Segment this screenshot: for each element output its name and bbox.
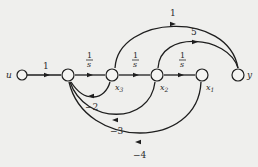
gain-x3-x2-num: 1	[133, 51, 138, 60]
node-x2	[151, 69, 163, 81]
node-n1	[62, 69, 74, 81]
gain-u-n1: 1	[43, 61, 49, 71]
node-label-x3: x3	[115, 83, 124, 93]
gain-x3-n1: −2	[85, 102, 98, 112]
node-x1	[196, 69, 208, 81]
node-label-y: y	[246, 70, 253, 80]
signal-flow-graph: u y x3 x2 x1 1 1 s 1 s 1 s 1 5 −2 −3 −4	[0, 0, 258, 167]
gain-x3-y: 1	[170, 8, 176, 18]
gain-x2-x1-den: s	[180, 60, 184, 69]
node-label-u: u	[6, 70, 12, 80]
gain-x3-x2-den: s	[133, 60, 137, 69]
node-x3	[106, 69, 118, 81]
node-u	[17, 70, 27, 80]
gain-x2-y: 5	[191, 27, 197, 37]
gain-x2-x1-num: 1	[180, 51, 185, 60]
gain-x1-n1: −4	[133, 150, 147, 160]
gain-n1-x3-den: s	[87, 60, 91, 69]
gain-x2-n1: −3	[110, 126, 124, 136]
node-label-x2: x2	[160, 83, 169, 93]
gain-n1-x3-num: 1	[87, 51, 92, 60]
node-y	[232, 69, 244, 81]
node-label-x1: x1	[206, 83, 214, 93]
